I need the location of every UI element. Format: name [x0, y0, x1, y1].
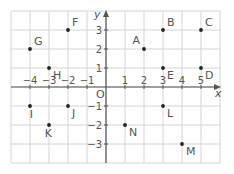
point-label-k: K — [45, 127, 53, 140]
point-label-l: L — [167, 107, 174, 120]
x-tick-label: −4 — [23, 75, 38, 86]
x-tick-label: 3 — [160, 75, 166, 86]
point-label-n: N — [129, 126, 137, 139]
point-l — [161, 104, 165, 108]
point-label-a: A — [132, 34, 140, 47]
y-tick-label: 1 — [96, 63, 102, 74]
origin-label: O — [96, 88, 105, 101]
y-tick-label: −1 — [87, 101, 102, 112]
point-label-m: M — [186, 145, 196, 158]
x-tick-label: 5 — [198, 75, 204, 86]
point-label-c: C — [205, 16, 213, 29]
point-label-d: D — [205, 69, 213, 82]
point-label-e: E — [167, 69, 174, 82]
point-label-f: F — [72, 16, 78, 29]
y-tick-label: 3 — [96, 25, 102, 36]
x-tick-label: −2 — [61, 75, 76, 86]
x-tick-label: 2 — [141, 75, 147, 86]
x-tick-label: 4 — [179, 75, 185, 86]
y-tick-label: −3 — [87, 139, 102, 150]
point-label-h: H — [53, 69, 61, 82]
point-label-g: G — [34, 35, 43, 48]
point-label-j: J — [71, 107, 75, 120]
y-axis-label: y — [93, 8, 101, 21]
point-b — [161, 28, 165, 32]
x-tick-label: −1 — [80, 75, 95, 86]
point-label-b: B — [167, 16, 175, 29]
point-e — [161, 66, 165, 70]
point-m — [180, 142, 184, 146]
x-tick-label: 1 — [122, 75, 128, 86]
point-g — [28, 47, 32, 51]
point-j — [66, 104, 70, 108]
x-axis-label: x — [214, 87, 222, 100]
point-label-i: I — [30, 108, 33, 121]
coordinate-grid-chart: x y O −4−3−2−112345 −3−2−1123 ABCDEFGHIJ… — [0, 0, 234, 174]
y-tick-label: −2 — [87, 120, 102, 131]
point-f — [66, 28, 70, 32]
point-n — [123, 123, 127, 127]
y-tick-label: 2 — [96, 44, 102, 55]
point-a — [142, 47, 146, 51]
point-h — [47, 66, 51, 70]
point-d — [199, 66, 203, 70]
point-c — [199, 28, 203, 32]
